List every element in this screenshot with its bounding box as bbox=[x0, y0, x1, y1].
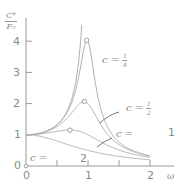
x-tick-2: 2 bbox=[147, 170, 154, 181]
arrow-c-one bbox=[97, 138, 112, 147]
annotation-c-one: c = bbox=[116, 129, 133, 139]
arrow-c-half bbox=[100, 112, 119, 123]
peak-marker bbox=[85, 38, 89, 42]
y-tick-2: 2 bbox=[13, 98, 20, 109]
annotation-c-two-value: 2 bbox=[80, 153, 87, 164]
y-tick-1: 1 bbox=[14, 129, 21, 140]
y-axis-label: C* F₀ bbox=[5, 12, 17, 31]
annotation-c-one-value: 1 bbox=[168, 127, 175, 138]
fraction-one-half: 12 bbox=[146, 101, 151, 116]
axes bbox=[26, 18, 174, 166]
peak-marker bbox=[68, 128, 72, 132]
y-tick-4: 4 bbox=[13, 36, 20, 47]
curves bbox=[26, 25, 150, 160]
origin-marker bbox=[24, 164, 28, 168]
fraction-one-quarter: 14 bbox=[122, 53, 127, 68]
x-tick-1: 1 bbox=[85, 170, 92, 181]
resonance-chart bbox=[0, 0, 184, 192]
x-axis-label: ω bbox=[167, 172, 174, 181]
peak-marker bbox=[82, 99, 86, 103]
y-tick-3: 3 bbox=[13, 67, 20, 78]
y-axis-label-denominator: F₀ bbox=[7, 23, 16, 31]
x-tick-0: 0 bbox=[23, 170, 30, 181]
annotation-c-two: c = bbox=[30, 153, 47, 163]
annotation-c-half: c = 12 bbox=[126, 101, 151, 116]
annotation-c-quarter: c = 14 bbox=[102, 53, 127, 68]
y-tick-0: 0 bbox=[14, 160, 21, 171]
y-axis-label-numerator: C* bbox=[6, 12, 16, 20]
curve-4 bbox=[26, 25, 82, 135]
